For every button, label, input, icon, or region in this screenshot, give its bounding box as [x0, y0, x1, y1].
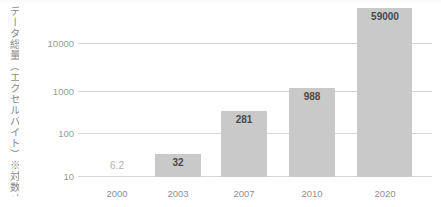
x-tick-label-2000: 2000	[106, 188, 127, 199]
bar-value-2000: 6.2	[110, 160, 124, 171]
plot-area: 10000 1000 100 10 6.2 32 281 988 59000 2…	[0, 0, 441, 207]
y-tick-label-10000: 10000	[14, 38, 74, 49]
bar-value-2020: 59000	[371, 11, 399, 22]
y-tick-label-1000: 1000	[14, 86, 74, 97]
x-tick-label-2007: 2007	[233, 188, 254, 199]
x-tick-label-2010: 2010	[301, 188, 322, 199]
bar-value-2003: 32	[172, 157, 183, 168]
y-tick-label-100: 100	[14, 128, 74, 139]
x-tick-label-2020: 2020	[374, 188, 395, 199]
x-tick-label-2003: 2003	[167, 188, 188, 199]
bar-value-2007: 281	[236, 114, 253, 125]
y-tick-label-10: 10	[14, 171, 74, 182]
bar-chart: データ総量（エクセルバイト）※対数メモリ 10000 1000 100 10 6…	[0, 0, 441, 207]
bar-2020	[357, 8, 412, 177]
bar-value-2010: 988	[304, 91, 321, 102]
